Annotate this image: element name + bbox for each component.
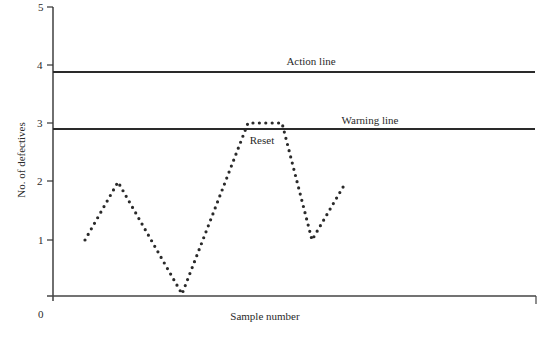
y-ticks: [47, 7, 53, 240]
y-tick-label-2: 2: [37, 175, 43, 187]
origin-label: 0: [38, 308, 44, 320]
y-tick-label-1: 1: [38, 234, 44, 246]
reset-annotation: Reset: [250, 134, 274, 146]
y-tick-label-4: 4: [37, 59, 43, 71]
y-tick-label-3: 3: [37, 117, 43, 129]
x-axis-title: Sample number: [230, 310, 300, 322]
y-tick-label-5: 5: [38, 1, 44, 13]
control-chart: 5 4 3 2 1 0 No. of defectives Sample num…: [0, 0, 554, 338]
warning-line-label: Warning line: [342, 114, 399, 126]
defectives-series: [85, 123, 346, 294]
y-axis-title: No. of defectives: [15, 122, 27, 197]
action-line-label: Action line: [286, 55, 335, 67]
